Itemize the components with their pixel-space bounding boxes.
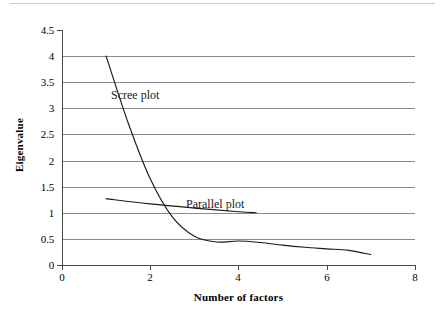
series-layer: [0, 0, 440, 316]
series-line-scree-plot: [106, 56, 371, 254]
series-line-parallel-plot: [106, 199, 256, 213]
scree-parallel-plot-figure: Scree plot Parallel plot 4.5 4 3.5 3 2.5…: [0, 0, 440, 316]
